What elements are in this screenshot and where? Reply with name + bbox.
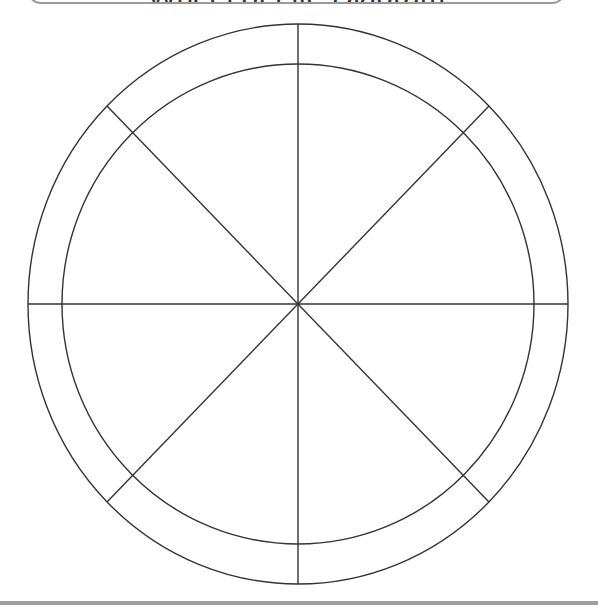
wheel-diagram [0,0,598,600]
footer-divider [0,601,598,605]
segments [62,64,534,544]
